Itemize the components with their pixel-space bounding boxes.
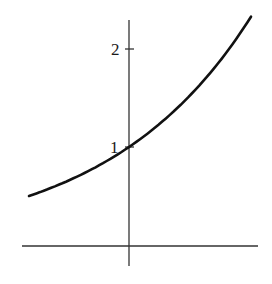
exponential-curve — [29, 17, 251, 196]
exponential-graph: 2 1 — [0, 0, 272, 284]
y-tick-label-2: 2 — [111, 40, 120, 59]
